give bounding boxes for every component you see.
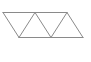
diagonal-edge-1 xyxy=(3,13,19,38)
triangle-strip xyxy=(0,0,91,62)
diagonals xyxy=(3,13,83,38)
diagonal-edge-5 xyxy=(67,13,83,38)
diagonal-edge-2 xyxy=(19,13,35,38)
diagram-canvas xyxy=(0,0,91,62)
diagonal-edge-4 xyxy=(51,13,67,38)
diagonal-edge-3 xyxy=(35,13,51,38)
